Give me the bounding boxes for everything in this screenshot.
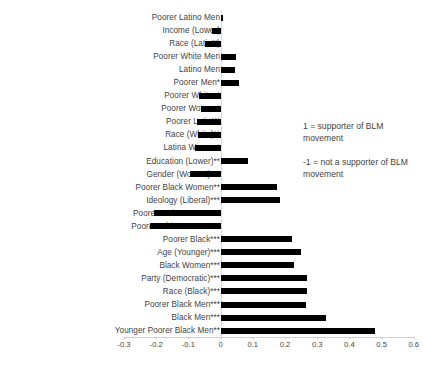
bar	[198, 132, 221, 138]
bar	[221, 158, 249, 164]
bar	[221, 15, 223, 21]
bar-row: Race (Black)***	[0, 285, 423, 298]
x-tick-mark	[285, 337, 286, 339]
bar-category-label: Poorer White Men	[153, 50, 220, 63]
bar	[221, 67, 236, 73]
bar-category-label: Poorer Black Men***	[144, 298, 220, 311]
bar	[221, 275, 307, 281]
bar-row: Age (Younger)***	[0, 246, 423, 259]
bar-category-label: Black Men***	[172, 311, 220, 324]
x-tick-mark	[188, 337, 189, 339]
bar-row: Black Men***	[0, 311, 423, 324]
bar-row: Younger Poorer Black Men**	[0, 324, 423, 337]
bar-row: Poorer White Men	[0, 50, 423, 63]
bar-row: Poorer Women*	[0, 102, 423, 115]
x-tick-label: -0.2	[150, 339, 163, 350]
x-tick-label: -0.1	[182, 339, 195, 350]
x-tick-mark	[349, 337, 350, 339]
bar	[221, 236, 292, 242]
bar	[221, 54, 236, 60]
x-axis-tick-labels: -0.3-0.2-0.100.10.20.30.40.50.6	[0, 339, 423, 353]
x-tick-label: 0.2	[280, 339, 291, 350]
bar-category-label: Younger Poorer Black Men**	[115, 324, 220, 337]
bar-category-label: Ideology (Liberal)***	[146, 194, 220, 207]
bar-category-label: Party (Democratic)***	[141, 272, 220, 285]
x-tick-label: 0.6	[409, 339, 420, 350]
bar-row: Poorer Whites*	[0, 89, 423, 102]
bar-category-label: Race (Black)***	[163, 285, 220, 298]
bar	[221, 328, 375, 334]
x-tick-mark	[124, 337, 125, 339]
bar-category-label: Age (Younger)***	[157, 246, 220, 259]
bar-category-label: Poorer Black Women**	[135, 181, 220, 194]
bar-row: Race (LatinX)	[0, 37, 423, 50]
bar	[221, 288, 307, 294]
bar-chart: Poorer Latino MenIncome (Lower)Race (Lat…	[0, 0, 423, 366]
bar-category-label: Black Women***	[159, 259, 220, 272]
x-tick-label: 0.4	[344, 339, 355, 350]
x-tick-mark	[253, 337, 254, 339]
legend-note-positive: 1 = supporter of BLM movement	[303, 121, 421, 144]
bar	[154, 210, 220, 216]
x-tick-mark	[414, 337, 415, 339]
bar-category-label: Poorer Latino Men	[152, 11, 220, 24]
x-tick-label: 0.1	[248, 339, 259, 350]
x-tick-mark	[317, 337, 318, 339]
bar	[195, 145, 221, 151]
bar-row: Poorer Latina Women**	[0, 207, 423, 220]
bar-row: Ideology (Liberal)***	[0, 194, 423, 207]
bar-row: Poorer Black Men***	[0, 298, 423, 311]
bar-row: Latino Men	[0, 63, 423, 76]
x-tick-label: 0.5	[376, 339, 387, 350]
x-tick-mark	[382, 337, 383, 339]
bar-row: Poorer White Women***	[0, 220, 423, 233]
legend-note-negative: -1 = not a supporter of BLM movement	[303, 157, 421, 180]
bar	[221, 315, 326, 321]
bar-row: Black Women***	[0, 259, 423, 272]
bar-row: Poorer Latino Men	[0, 11, 423, 24]
bar	[199, 93, 220, 99]
bar-row: Income (Lower)	[0, 24, 423, 37]
x-tick-label: -0.3	[117, 339, 130, 350]
bar	[221, 184, 278, 190]
bar	[221, 249, 301, 255]
bar	[221, 197, 280, 203]
bar-category-label: Poorer Men*	[173, 76, 220, 89]
x-tick-label: 0	[218, 339, 222, 350]
bar	[201, 106, 221, 112]
x-tick-mark	[221, 337, 222, 339]
bar-row: Poorer Men*	[0, 76, 423, 89]
bar	[221, 302, 307, 308]
bar	[205, 41, 220, 47]
bar	[221, 262, 294, 268]
x-axis-line	[124, 337, 415, 338]
bar	[190, 171, 221, 177]
bar-category-label: Latino Men	[179, 63, 220, 76]
bar-row: Poorer Black***	[0, 233, 423, 246]
bar	[197, 119, 221, 125]
bar	[212, 28, 221, 34]
bar	[150, 223, 220, 229]
bar-row: Poorer Black Women**	[0, 181, 423, 194]
bar-row: Party (Democratic)***	[0, 272, 423, 285]
x-tick-mark	[156, 337, 157, 339]
bar-category-label: Education (Lower)**	[146, 155, 220, 168]
bar	[221, 80, 240, 86]
x-tick-label: 0.3	[312, 339, 323, 350]
bar-category-label: Poorer Black***	[163, 233, 220, 246]
